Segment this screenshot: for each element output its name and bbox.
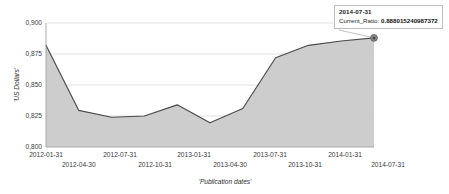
tooltip-metric-value: 0.888015240987372 — [381, 17, 438, 24]
y-axis-title: 'US Dollars' — [13, 67, 20, 102]
marker-inner-dot — [373, 36, 376, 39]
x-tick-label: 2012-04-30 — [62, 161, 96, 168]
tooltip: 2014-07-31 Current_Ratio: 0.888015240987… — [334, 5, 443, 29]
x-tick-label: 2013-10-31 — [288, 161, 322, 168]
y-tick-labels: 0,900 0,875 0,850 0,825 0,800 — [25, 19, 42, 150]
tooltip-metric-row: Current_Ratio: 0.888015240987372 — [339, 17, 438, 25]
area-chart: 0,900 0,875 0,850 0,825 0,800 2012-01-31… — [0, 0, 449, 194]
tooltip-metric-label: Current_Ratio: — [339, 17, 379, 24]
data-point-marker[interactable] — [371, 34, 378, 41]
tooltip-date: 2014-07-31 — [339, 8, 438, 16]
x-tick-label: 2014-01-31 — [328, 151, 362, 158]
x-tick-label: 2014-07-31 — [371, 161, 405, 168]
chart-svg: 0,900 0,875 0,850 0,825 0,800 2012-01-31… — [0, 0, 449, 194]
x-axis-title: 'Publication dates' — [199, 178, 252, 185]
x-tick-labels: 2012-01-31 2012-04-30 2012-07-31 2012-10… — [29, 151, 405, 168]
x-tick-label: 2012-01-31 — [29, 151, 63, 158]
x-tick-label: 2013-01-31 — [177, 151, 211, 158]
x-tick-label: 2013-07-31 — [253, 151, 287, 158]
x-tick-label: 2012-07-31 — [103, 151, 137, 158]
y-tick-label: 0,825 — [25, 112, 42, 119]
y-tick-label: 0,875 — [25, 50, 42, 57]
y-tick-label: 0,900 — [25, 19, 42, 26]
y-tick-label: 0,800 — [25, 143, 42, 150]
y-tick-label: 0,850 — [25, 81, 42, 88]
x-tick-label: 2012-10-31 — [138, 161, 172, 168]
tooltip-leader-line — [339, 30, 374, 38]
x-tick-label: 2013-04-30 — [213, 161, 247, 168]
